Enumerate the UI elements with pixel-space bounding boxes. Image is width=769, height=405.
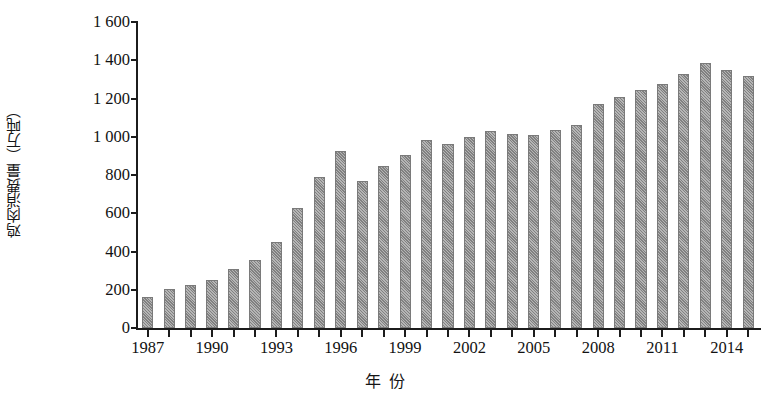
x-axis-tick-label: 2014 (697, 340, 757, 357)
x-axis-tick-mark (447, 330, 449, 337)
y-axis-tick-label: 1 000 (58, 129, 130, 146)
x-axis-tick-label: 2005 (504, 340, 564, 357)
y-axis-tick-mark (131, 21, 138, 23)
x-axis-title: 年 份 (0, 368, 769, 392)
bar (464, 137, 475, 328)
bar (228, 269, 239, 328)
y-axis-tick-label: 400 (58, 243, 130, 260)
bar (678, 74, 689, 328)
x-axis-tick-label: 2008 (568, 340, 628, 357)
x-axis-tick-mark (426, 330, 428, 337)
y-axis-tick-label: 200 (58, 282, 130, 299)
bar (721, 70, 732, 328)
x-axis-tick-mark (640, 330, 642, 337)
x-axis-tick-mark (404, 330, 406, 337)
bar (528, 135, 539, 328)
bar (292, 208, 303, 328)
bar (571, 125, 582, 328)
y-axis-tick-mark (131, 136, 138, 138)
y-axis-tick-label: 800 (58, 167, 130, 184)
bar (700, 63, 711, 328)
x-axis-tick-label: 1990 (182, 340, 242, 357)
bar (249, 260, 260, 328)
x-axis-tick-label: 1999 (375, 340, 435, 357)
bar (550, 130, 561, 328)
x-axis-tick-mark (233, 330, 235, 337)
bar (164, 289, 175, 328)
y-axis-tick-label: 1 200 (58, 90, 130, 107)
x-axis-tick-mark (383, 330, 385, 337)
bar (743, 76, 754, 328)
y-axis-tick-mark (131, 59, 138, 61)
x-axis-tick-mark (297, 330, 299, 337)
x-axis-tick-mark (661, 330, 663, 337)
bar (635, 90, 646, 328)
x-axis-tick-mark (683, 330, 685, 337)
x-axis-tick-mark (533, 330, 535, 337)
y-axis-tick-mark (131, 327, 138, 329)
y-axis-tick-mark (131, 251, 138, 253)
bar (357, 181, 368, 328)
bar (206, 280, 217, 328)
bar (142, 297, 153, 328)
y-axis-tick-label: 1 400 (58, 52, 130, 69)
y-axis-tick-label: 1 600 (58, 14, 130, 31)
x-axis-tick-mark (511, 330, 513, 337)
x-axis-tick-mark (190, 330, 192, 337)
bar (185, 285, 196, 328)
bar (485, 131, 496, 328)
bar (378, 166, 389, 328)
bar (400, 155, 411, 328)
x-axis-tick-mark (275, 330, 277, 337)
bar (421, 140, 432, 328)
x-axis-tick-mark (704, 330, 706, 337)
y-axis-tick-mark (131, 212, 138, 214)
x-axis-tick-mark (361, 330, 363, 337)
x-axis-tick-label: 1996 (311, 340, 371, 357)
x-axis-tick-mark (597, 330, 599, 337)
x-axis-tick-mark (554, 330, 556, 337)
x-axis-tick-mark (211, 330, 213, 337)
x-axis-tick-mark (490, 330, 492, 337)
x-axis-tick-mark (340, 330, 342, 337)
y-axis-tick-label: 600 (58, 205, 130, 222)
y-axis-tick-mark (131, 174, 138, 176)
bar (335, 151, 346, 328)
bar (271, 242, 282, 328)
x-axis-tick-mark (468, 330, 470, 337)
y-axis-tick-label: 0 (58, 320, 130, 337)
x-axis-tick-mark (726, 330, 728, 337)
chart-figure: 鸡肉消费量（万吨） 02004006008001 0001 2001 4001 … (0, 0, 769, 405)
bar (507, 134, 518, 328)
x-axis-tick-mark (747, 330, 749, 337)
x-axis-tick-mark (254, 330, 256, 337)
bar (657, 84, 668, 328)
y-axis-title: 鸡肉消费量（万吨） (2, 0, 28, 340)
y-axis-tick-mark (131, 289, 138, 291)
x-axis-tick-mark (619, 330, 621, 337)
bar (442, 144, 453, 328)
x-axis-tick-label: 2002 (439, 340, 499, 357)
y-axis-title-text: 鸡肉消费量（万吨） (7, 103, 23, 238)
plot-area (137, 22, 759, 328)
x-axis-tick-label: 1993 (246, 340, 306, 357)
x-axis-tick-mark (318, 330, 320, 337)
x-axis-tick-mark (147, 330, 149, 337)
bar (593, 104, 604, 328)
bar (314, 177, 325, 328)
x-axis-tick-mark (576, 330, 578, 337)
x-axis-tick-label: 2011 (632, 340, 692, 357)
y-axis-tick-mark (131, 98, 138, 100)
bar (614, 97, 625, 328)
x-axis-tick-mark (168, 330, 170, 337)
x-axis-tick-label: 1987 (118, 340, 178, 357)
